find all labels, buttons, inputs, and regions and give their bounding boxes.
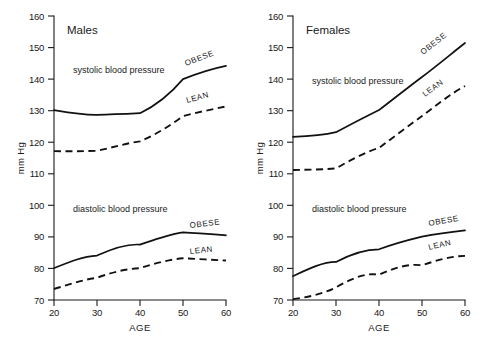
y-tick-label: 140 <box>29 74 44 85</box>
y-tick-label: 70 <box>273 295 283 306</box>
x-tick-label: 50 <box>178 307 188 318</box>
y-tick-label: 130 <box>29 105 44 116</box>
x-ticks-females <box>293 300 465 306</box>
series-label-females-systolic-lean: LEAN <box>421 78 445 99</box>
x-tick-label: 20 <box>49 307 59 318</box>
x-tick-label: 30 <box>92 307 102 318</box>
series-label-females-systolic-obese: OBESE <box>419 31 449 57</box>
x-ticks-males <box>54 300 226 306</box>
panel-title-males: Males <box>67 24 98 36</box>
y-tick-label: 160 <box>268 11 283 22</box>
x-tick-label: 40 <box>135 307 145 318</box>
annotation-systolic-males: systolic blood pressure <box>73 65 165 75</box>
y-tick-label: 130 <box>268 105 283 116</box>
y-axis-title-males: mm Hg <box>15 142 26 175</box>
panel-females: 160 150 140 130 120 110 100 90 80 70 <box>243 0 486 337</box>
x-tick-label: 40 <box>374 307 384 318</box>
y-tick-label: 120 <box>268 137 283 148</box>
x-tick-label: 30 <box>331 307 341 318</box>
y-tick-label: 90 <box>34 231 44 242</box>
curve-females-systolic-lean <box>293 86 465 170</box>
y-tick-label: 150 <box>29 42 44 53</box>
panel-title-females: Females <box>306 24 350 36</box>
x-axis-title-males: AGE <box>129 322 150 333</box>
curve-males-diastolic-lean <box>54 258 226 289</box>
y-tick-label: 80 <box>273 263 283 274</box>
y-tick-label: 100 <box>268 200 283 211</box>
x-tick-label: 20 <box>288 307 298 318</box>
annotation-diastolic-females: diastolic blood pressure <box>312 204 407 214</box>
panel-males: 160 150 140 130 120 110 100 90 80 70 <box>0 0 243 337</box>
y-ticks-females <box>287 16 293 300</box>
females-plot-svg: 160 150 140 130 120 110 100 90 80 70 <box>243 0 487 337</box>
series-label-males-systolic-obese: OBESE <box>183 49 215 68</box>
x-tick-label: 60 <box>460 307 470 318</box>
curve-females-diastolic-obese <box>293 230 465 276</box>
y-tick-label: 160 <box>29 11 44 22</box>
y-tick-labels-males: 160 150 140 130 120 110 100 90 80 70 <box>29 11 44 306</box>
series-label-females-diastolic-lean: LEAN <box>427 238 452 252</box>
blood-pressure-figure: 160 150 140 130 120 110 100 90 80 70 <box>0 0 487 337</box>
curve-females-systolic-obese <box>293 43 465 137</box>
males-plot-svg: 160 150 140 130 120 110 100 90 80 70 <box>0 0 243 337</box>
y-tick-label: 140 <box>268 74 283 85</box>
y-tick-label: 150 <box>268 42 283 53</box>
series-label-females-diastolic-obese: OBESE <box>428 214 460 228</box>
y-tick-label: 110 <box>269 168 283 179</box>
series-label-males-diastolic-lean: LEAN <box>189 245 213 256</box>
y-tick-label: 100 <box>29 200 44 211</box>
annotation-systolic-females: systolic blood pressure <box>312 76 404 86</box>
x-tick-labels-males: 20 30 40 50 60 <box>49 307 231 318</box>
curve-females-diastolic-lean <box>293 256 465 299</box>
x-tick-label: 50 <box>417 307 427 318</box>
y-tick-label: 90 <box>273 231 283 242</box>
x-tick-labels-females: 20 30 40 50 60 <box>288 307 470 318</box>
y-tick-label: 110 <box>30 168 44 179</box>
annotation-diastolic-males: diastolic blood pressure <box>73 204 168 214</box>
x-tick-label: 60 <box>221 307 231 318</box>
y-tick-label: 120 <box>29 137 44 148</box>
y-tick-label: 80 <box>34 263 44 274</box>
y-tick-label: 70 <box>34 295 44 306</box>
axis-lines-females <box>293 16 465 300</box>
y-axis-title-females: mm Hg <box>254 142 265 175</box>
series-label-males-diastolic-obese: OBESE <box>189 217 220 230</box>
x-axis-title-females: AGE <box>368 322 389 333</box>
y-tick-labels-females: 160 150 140 130 120 110 100 90 80 70 <box>268 11 283 306</box>
series-label-males-systolic-lean: LEAN <box>185 90 210 105</box>
y-ticks-males <box>48 16 54 300</box>
